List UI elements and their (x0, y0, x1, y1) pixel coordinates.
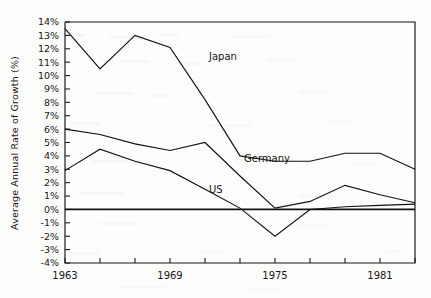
y-axis-tick-labels: 14%13%12%11%10%9%8%7%6%5%4%3%2%1%0%-1%-2… (38, 16, 59, 268)
y-tick-label: 13% (38, 30, 59, 41)
series-line-us (65, 149, 415, 236)
series-inline-labels: JapanGermanyUS (208, 51, 290, 195)
y-tick-label: 1% (44, 190, 59, 201)
series-label-us: US (209, 184, 223, 195)
y-tick-label: 7% (44, 110, 59, 121)
y-tick-label: 10% (38, 70, 59, 81)
plot-frame (65, 22, 415, 263)
y-tick-label: 12% (38, 43, 59, 54)
y-axis-title-text: Average Annual Rate of Growth (%) (9, 56, 20, 230)
series-line-germany (65, 129, 415, 208)
y-tick-label: -2% (41, 231, 60, 242)
y-tick-label: 0% (44, 204, 59, 215)
y-tick-label: -1% (41, 217, 60, 228)
x-tick-label-1981: 1981 (367, 270, 392, 281)
y-axis-title: Average Annual Rate of Growth (%) (9, 56, 20, 230)
x-tick-label-1975: 1975 (262, 270, 287, 281)
y-tick-label: -4% (41, 257, 60, 268)
y-tick-label: 5% (44, 137, 59, 148)
y-tick-label: 3% (44, 164, 59, 175)
x-tick-label-1963: 1963 (52, 270, 77, 281)
y-tick-label: 8% (44, 97, 59, 108)
y-tick-label: 14% (38, 16, 59, 27)
y-tick-label: 6% (44, 124, 59, 135)
series-label-japan: Japan (208, 51, 237, 62)
x-axis-tick-labels: 1963196919751981 (52, 270, 392, 281)
data-series-lines (65, 29, 415, 237)
y-tick-label: 9% (44, 83, 59, 94)
line-chart: 14%13%12%11%10%9%8%7%6%5%4%3%2%1%0%-1%-2… (0, 0, 431, 298)
chart-container: 14%13%12%11%10%9%8%7%6%5%4%3%2%1%0%-1%-2… (0, 0, 431, 298)
y-axis-ticks (65, 22, 73, 263)
series-label-germany: Germany (244, 153, 290, 164)
series-line-japan (65, 29, 415, 170)
y-tick-label: 4% (44, 150, 59, 161)
x-tick-label-1969: 1969 (157, 270, 182, 281)
y-tick-label: 11% (38, 57, 59, 68)
y-tick-label: 2% (44, 177, 59, 188)
y-tick-label: -3% (41, 244, 60, 255)
x-axis-ticks (65, 258, 415, 263)
